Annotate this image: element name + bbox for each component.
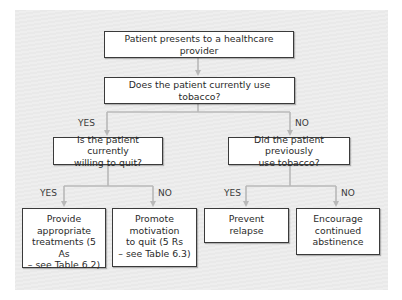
edge-label-previous-yes: YES	[224, 188, 241, 198]
node-prevent-relapse: Prevent relapse	[204, 208, 289, 243]
node-provide-treatments: Provide appropriate treatments (5 As – s…	[22, 208, 106, 268]
node-willing-to-quit: Is the patient currently willing to quit…	[53, 137, 163, 165]
edge-label-current-no: NO	[295, 118, 309, 128]
node-previous-tobacco-use: Did the patient previously use tobacco?	[228, 137, 350, 165]
edge-label-previous-no: NO	[341, 188, 355, 198]
node-promote-motivation: Promote motivation to quit (5 Rs – see T…	[112, 208, 197, 267]
edge-label-willing-no: NO	[158, 188, 172, 198]
node-current-tobacco-use: Does the patient currently use tobacco?	[104, 77, 295, 104]
edge-label-willing-yes: YES	[40, 188, 57, 198]
edge-label-current-yes: YES	[78, 118, 95, 128]
node-encourage-abstinence: Encourage continued abstinence	[296, 208, 380, 255]
node-start: Patient presents to a healthcare provide…	[104, 31, 294, 58]
